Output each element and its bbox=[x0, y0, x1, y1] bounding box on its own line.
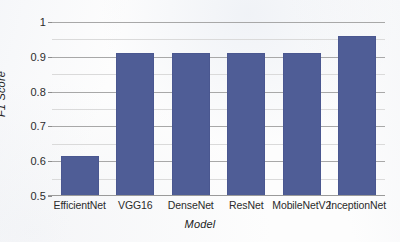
bar bbox=[283, 53, 321, 196]
y-axis-title: F1 Score bbox=[0, 71, 7, 117]
x-tick-label: DenseNet bbox=[168, 199, 214, 211]
bar bbox=[116, 53, 154, 196]
bar bbox=[338, 36, 376, 196]
y-tick-mark bbox=[48, 196, 52, 197]
bar bbox=[172, 53, 210, 196]
x-tick-label: EfficientNet bbox=[54, 199, 106, 211]
x-axis-line bbox=[48, 195, 385, 196]
y-tick-label: 0.8 bbox=[30, 86, 46, 98]
x-tick-label: ResNet bbox=[229, 199, 263, 211]
y-tick-label: 0.7 bbox=[30, 120, 46, 132]
bar bbox=[227, 53, 265, 196]
x-tick-label: InceptionNet bbox=[328, 199, 386, 211]
x-axis-title: Model bbox=[0, 218, 400, 230]
x-axis-tick-labels: EfficientNetVGG16DenseNetResNetMobileNet… bbox=[52, 199, 385, 215]
y-tick-label: 0.9 bbox=[30, 51, 46, 63]
bars-group bbox=[52, 22, 385, 196]
x-tick-label: VGG16 bbox=[118, 199, 153, 211]
plot-area bbox=[52, 22, 385, 196]
y-tick-label: 1 bbox=[40, 16, 46, 28]
bar-chart-figure: 0.50.60.70.80.91 EfficientNetVGG16DenseN… bbox=[0, 0, 400, 242]
bar bbox=[61, 156, 99, 196]
y-tick-label: 0.5 bbox=[30, 190, 46, 202]
y-tick-label: 0.6 bbox=[30, 155, 46, 167]
x-tick-label: MobileNetV2 bbox=[272, 199, 331, 211]
